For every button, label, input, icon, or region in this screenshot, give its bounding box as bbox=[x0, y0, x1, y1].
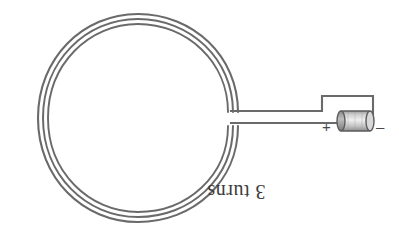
turns-label: 3 turns bbox=[207, 180, 266, 204]
battery-right-cap bbox=[366, 111, 374, 131]
battery-cell bbox=[337, 111, 374, 131]
coil-turn-inner bbox=[48, 24, 228, 212]
coil-turn-middle bbox=[43, 19, 233, 217]
battery-negative-label: – bbox=[376, 119, 384, 134]
battery-left-cap bbox=[337, 111, 345, 131]
battery-positive-label: + bbox=[322, 119, 331, 134]
physics-diagram-figure: 3 turns + – bbox=[0, 0, 399, 248]
coil-circuit-drawing bbox=[0, 0, 399, 248]
